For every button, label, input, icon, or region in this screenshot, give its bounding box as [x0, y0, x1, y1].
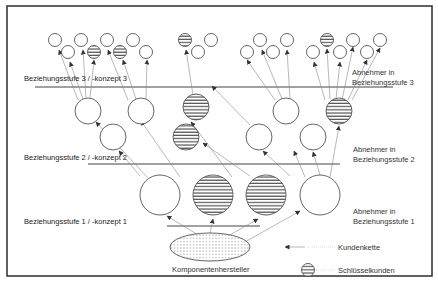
level-1-customer-node [140, 175, 180, 215]
level-2-customer-node [100, 124, 126, 150]
level-3-customer-node [267, 46, 280, 59]
level-2-side-label-line2: Beziehungsstufe 2 [353, 155, 415, 164]
level-3-customer-node [205, 34, 218, 47]
manufacturer-ellipse [170, 233, 250, 261]
level-3-customer-node [140, 46, 153, 59]
level-2-side-label-line1: Abnehmer in [353, 145, 396, 154]
level-3-customer-node [281, 34, 294, 47]
level-2-customer-node [75, 98, 101, 124]
level-2-key-customer-node [173, 124, 199, 150]
level-3-customer-node [347, 34, 360, 47]
level-2-key-customer-node [183, 94, 209, 120]
manufacturer-label: Komponentenhersteller [172, 265, 250, 274]
legend-key-customer-label: Schlüsselkunden [338, 266, 395, 275]
level-3-customer-node [361, 46, 374, 59]
level-3-key-customer-node [114, 46, 127, 59]
level-2-label: Beziehungsstufe 2 / -konzept 2 [24, 153, 127, 162]
level-2-customer-node [128, 98, 154, 124]
level-3-key-customer-node [179, 34, 192, 47]
level-2-customer-node [273, 98, 299, 124]
level-3-label: Beziehungsstufe 3 / -konzept 3 [24, 74, 127, 83]
level-3-customer-node [374, 34, 387, 47]
level-2-key-customer-node [326, 98, 352, 124]
level-3-customer-node [241, 46, 254, 59]
component-manufacturer-node [170, 233, 250, 261]
level-3-customer-node [307, 46, 320, 59]
level-3-side-label-line1: Abnehmer in [352, 68, 395, 77]
level-3-side-label-line2: Beziehungsstufe 3 [352, 78, 414, 87]
level-3-customer-node [62, 46, 75, 59]
level-3-customer-node [49, 34, 62, 47]
level-3-key-customer-node [321, 34, 334, 47]
legend-chain-label: Kundenkette [338, 243, 380, 252]
level-1-label: Beziehungsstufe 1 / -konzept 1 [24, 217, 127, 226]
level-2-customer-node [246, 124, 272, 150]
level-1-key-customer-node [246, 175, 286, 215]
level-1-key-customer-node [193, 175, 233, 215]
level-1-side-label-line1: Abnehmer in [353, 207, 396, 216]
level-3-customer-node [127, 34, 140, 47]
level-3-key-customer-node [88, 46, 101, 59]
level-1-customer-node [300, 175, 340, 215]
level-3-customer-node [254, 34, 267, 47]
level-3-customer-node [101, 34, 114, 47]
level-2-customer-node [300, 124, 326, 150]
level-3-customer-node [75, 34, 88, 47]
level-3-customer-node [334, 46, 347, 59]
legend-key-customer-icon [302, 264, 315, 277]
level-3-customer-node [192, 46, 205, 59]
level-1-side-label-line2: Beziehungsstufe 1 [353, 217, 415, 226]
